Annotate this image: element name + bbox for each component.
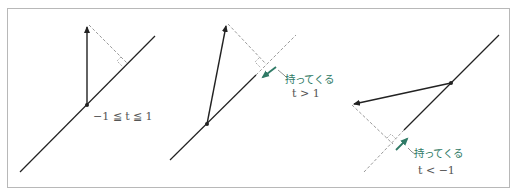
right-angle-mark (255, 58, 261, 68)
condition-label-3: t < −1 (418, 165, 455, 176)
extension-dashed (256, 35, 296, 75)
note-label-3: 持ってくる (414, 148, 463, 159)
extension-dashed (364, 130, 404, 172)
panel-1 (20, 25, 155, 172)
bring-back-arrow (263, 67, 276, 77)
condition-label-1: −1 ≦ t ≦ 1 (93, 111, 153, 122)
point (449, 81, 453, 85)
condition-label-2: t > 1 (292, 88, 320, 99)
vector-arrow (354, 83, 451, 104)
bring-back-arrow (396, 139, 407, 150)
segment-line (170, 75, 256, 160)
panel-2 (170, 24, 296, 160)
point (85, 103, 89, 107)
projection-dashed (228, 24, 266, 64)
point (205, 122, 209, 126)
note-label-2: 持ってくる (285, 74, 334, 85)
vector-arrow (207, 26, 226, 124)
projection-dashed (352, 105, 393, 144)
projection-dashed (89, 25, 127, 63)
